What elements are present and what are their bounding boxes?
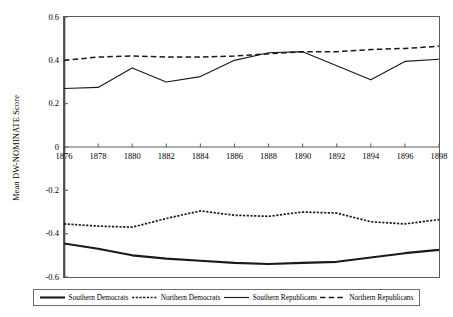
legend-label: Northern Republicans — [349, 293, 413, 302]
legend-swatch-line — [132, 293, 157, 302]
x-tick-label: 1898 — [419, 151, 453, 161]
legend-item[interactable]: Southern Democrats — [40, 291, 129, 304]
legend-item[interactable]: Southern Republicans — [224, 291, 317, 304]
legend-item[interactable]: Northern Democrats — [132, 291, 221, 304]
legend-swatch-line — [320, 293, 345, 302]
chart-figure: Mean DW-NOMINATE Score 0.60.40.20-0.2-0.… — [0, 0, 453, 317]
legend-label: Northern Democrats — [161, 293, 221, 302]
legend-swatch-line — [40, 293, 65, 302]
legend-item[interactable]: Northern Republicans — [320, 291, 413, 304]
x-axis-tick-labels: 1876187818801882188418861888189018921894… — [0, 0, 453, 317]
legend-swatch-line — [224, 293, 249, 302]
legend-label: Southern Democrats — [69, 293, 129, 302]
legend-label: Southern Republicans — [253, 293, 317, 302]
chart-legend: Southern DemocratsNorthern DemocratsSout… — [33, 289, 420, 306]
